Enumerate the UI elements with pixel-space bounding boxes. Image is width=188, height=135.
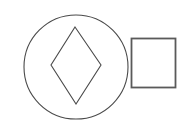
- shapes-svg: [0, 0, 188, 135]
- canvas-background: [0, 0, 188, 135]
- figure-canvas: [0, 0, 188, 135]
